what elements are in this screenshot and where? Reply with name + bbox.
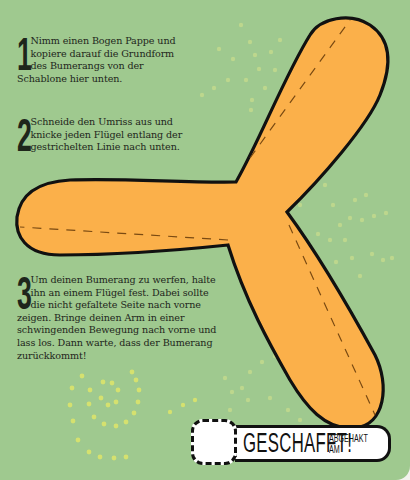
instruction-step-1: 1 Nimm einen Bogen Pappe und kopiere dar… (17, 35, 187, 85)
dashed-checkbox-icon[interactable] (191, 419, 237, 465)
spiral-dots-decoration (68, 370, 198, 461)
step-text: Schneide den Umriss aus und knicke jeden… (30, 116, 182, 152)
completion-stamp: GESCHAFFT! ABGEHAKT AM (191, 425, 403, 462)
instruction-step-2: 2 Schneide den Umriss aus und knicke jed… (17, 116, 207, 154)
step-number: 2 (17, 117, 32, 153)
craft-instruction-page: 1 Nimm einen Bogen Pappe und kopiere dar… (0, 0, 410, 480)
completion-date-label: ABGEHAKT AM (329, 433, 368, 455)
completion-title: GESCHAFFT! (243, 428, 288, 459)
step-number: 1 (17, 36, 32, 72)
completion-subtitle-line2: AM (329, 443, 340, 455)
step-text: Um deinen Bumerang zu werfen, halte ihn … (17, 274, 216, 361)
step-number: 3 (17, 275, 32, 311)
step-text: Nimm einen Bogen Pappe und kopiere darau… (17, 35, 176, 84)
completion-banner: GESCHAFFT! ABGEHAKT AM (235, 425, 391, 462)
instruction-step-3: 3 Um deinen Bumerang zu werfen, halte ih… (17, 274, 222, 362)
